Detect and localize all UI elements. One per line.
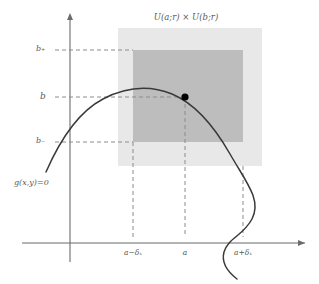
x-tick-label-a: a — [183, 248, 188, 257]
y-tick-label-b-plus: b₊ — [36, 44, 45, 53]
curve-equation-label: g(x,y)=0 — [14, 178, 49, 187]
x-tick-label-a-plus-delta: a+δₓ — [234, 248, 252, 257]
x-tick-label-a-minus-delta: a−δₓ — [124, 248, 142, 257]
solution-point — [181, 93, 188, 100]
diagram-canvas — [0, 0, 319, 284]
x-axis-arrowhead — [298, 240, 305, 246]
neighborhood-product-label: U(a;r) × U(b;r) — [154, 12, 218, 22]
y-tick-label-b-minus: b₋ — [36, 136, 45, 145]
y-tick-label-b: b — [40, 91, 46, 101]
y-axis-arrowhead — [67, 13, 73, 20]
implicit-function-theorem-diagram: U(a;r) × U(b;r) b₊ b b₋ a−δₓ a a+δₓ g(x,… — [0, 0, 319, 284]
